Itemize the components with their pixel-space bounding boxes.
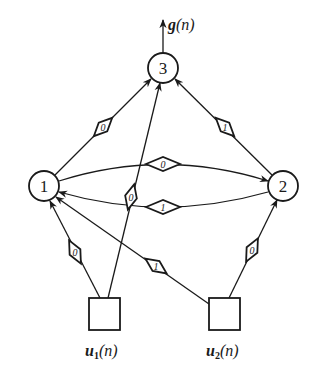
input-u1-label: u1(n) (85, 342, 118, 361)
svg-text:0: 0 (73, 247, 78, 258)
input-u2-label: u2(n) (206, 342, 239, 361)
svg-text:0: 0 (129, 192, 134, 203)
svg-text:0: 0 (250, 245, 255, 256)
svg-text:1: 1 (223, 122, 228, 133)
svg-text:1: 1 (161, 202, 166, 213)
neuron-3: 3 (148, 53, 178, 83)
neuron-2: 2 (268, 171, 298, 201)
svg-text:0: 0 (161, 159, 166, 170)
svg-text:3: 3 (159, 59, 168, 78)
weight-u2-to-1: 1 (142, 254, 170, 279)
weight-u1-to-1: 0 (64, 238, 86, 267)
input-u2-box (209, 298, 240, 330)
input-u1-box (89, 298, 120, 330)
weight-2-to-1: 1 (146, 200, 180, 214)
weight-1-to-3: 0 (90, 114, 117, 141)
network-diagram: g(n) 0 0 1 0 1 0 1 0 (0, 0, 320, 377)
output-label: g(n) (167, 16, 195, 34)
weight-2-to-3: 1 (212, 114, 239, 141)
weight-1-to-2: 0 (146, 157, 180, 171)
svg-text:1: 1 (40, 177, 49, 196)
neuron-1: 1 (29, 171, 59, 201)
weight-u2-to-2: 0 (241, 236, 263, 265)
weight-u1-to-3: 0 (122, 183, 140, 211)
svg-text:1: 1 (154, 261, 159, 272)
svg-text:2: 2 (279, 177, 288, 196)
svg-text:0: 0 (101, 122, 106, 133)
